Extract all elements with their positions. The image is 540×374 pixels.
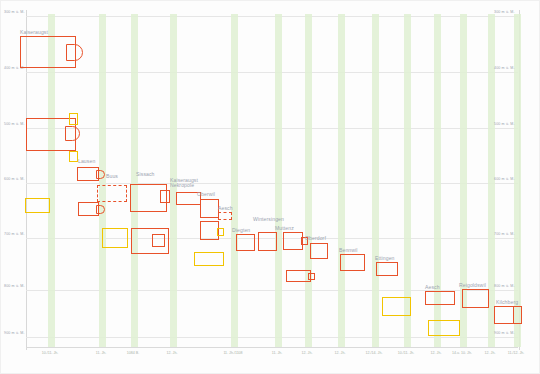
site-label: Kilchberg: [496, 300, 518, 305]
site-label: Diegten: [232, 228, 250, 233]
x-tick-label: 12. Jh.: [167, 352, 178, 356]
x-tick-label: 10./11. Jh.: [42, 352, 59, 356]
ground-plan-yellow-wide-low: [194, 252, 224, 266]
ground-plan-second-yellow-large: [25, 198, 50, 213]
x-tick-label: 12. Jh.: [302, 352, 313, 356]
site-label-line: Bennwil: [339, 248, 358, 253]
x-tick-label: 11./12. Jh.: [508, 352, 525, 356]
x-tick-label: 12. Jh.: [485, 352, 496, 356]
y-tick-label-right: 900 m ü. M.: [494, 332, 515, 336]
column-band: [275, 14, 282, 347]
column-band: [99, 14, 106, 347]
x-tick-label: 12. Jh.: [335, 352, 346, 356]
ground-plan-aesch-right-low: [428, 320, 460, 336]
column-band: [372, 14, 379, 347]
ground-plan-low-red-strip-annexe: [308, 273, 315, 280]
x-axis-line: [26, 347, 518, 348]
y-tick-label-left: 900 m ü. M.: [4, 332, 25, 336]
x-tick-label: 1084 B.: [127, 352, 139, 356]
y-tick-label-left: 800 m ü. M.: [4, 285, 25, 289]
ground-plan-aesch-right: [425, 291, 455, 305]
ground-plan-muttenz: [283, 232, 303, 250]
x-tick-label: 11. Jh.: [96, 352, 107, 356]
site-label-line: Kaiseraugst: [20, 30, 48, 35]
site-label: Oberdorf: [305, 236, 326, 241]
ground-plan-wintersingen: [258, 232, 277, 251]
site-label: Aesch: [218, 206, 233, 211]
column-band: [305, 14, 312, 347]
site-label: KaiseraugstNekropole: [170, 178, 198, 189]
ground-plan-yellow-mid-right: [382, 297, 411, 316]
ground-plan-kilchberg-divider: [513, 306, 522, 324]
site-label: Buus: [106, 174, 118, 179]
y-tick-label-left: 500 m ü. M.: [4, 123, 25, 127]
ground-plan-lausen-annexe-top: [69, 113, 78, 125]
x-tick-label: 11. Jh./1108: [223, 352, 242, 356]
site-label: Bennwil: [339, 248, 358, 253]
ground-plan-big-red-low-choir: [152, 234, 165, 247]
y-tick-label-left: 700 m ü. M.: [4, 233, 25, 237]
site-label-line: Kilchberg: [496, 300, 518, 305]
x-tick-label: 10./11. Jh.: [398, 352, 415, 356]
ground-plan-kaiseraugst-apse: [66, 44, 83, 61]
site-label-line: Oberdorf: [305, 236, 326, 241]
ground-plan-oberdorf: [310, 243, 328, 259]
figure-canvas: 300 m ü. M.300 m ü. M.400 m ü. M.400 m ü…: [0, 0, 540, 374]
x-tick-label: 12. Jh.: [431, 352, 442, 356]
ground-plan-second-red-apse: [96, 205, 105, 214]
y-tick-label-right: 800 m ü. M.: [494, 285, 515, 289]
y-tick-label-left: 600 m ü. M.: [4, 178, 25, 182]
site-label-line: Aesch: [425, 285, 440, 290]
ground-plan-buus-ghost: [97, 185, 127, 202]
ground-plan-sissach-choir: [160, 190, 170, 203]
y-tick-label-left: 300 m ü. M.: [4, 11, 25, 15]
site-label-line: Diegten: [232, 228, 250, 233]
site-label-line: Nekropole: [170, 183, 198, 188]
site-label: Oberwil: [197, 192, 215, 197]
ground-plan-diegten: [236, 234, 255, 251]
site-label-line: Ettingen: [375, 256, 395, 261]
site-label: Kaiseraugst: [20, 30, 48, 35]
ground-plan-bennwil: [340, 254, 365, 271]
x-tick-label: 14.u. 10. Jh.: [452, 352, 472, 356]
site-label: Lausen: [78, 159, 95, 164]
site-label: Ettingen: [375, 256, 395, 261]
ground-plan-ettingen: [376, 262, 398, 276]
site-label-line: Reigoldswil: [459, 283, 486, 288]
column-band: [231, 14, 238, 347]
site-label: Muttenz: [275, 226, 294, 231]
ground-plan-aesch-dashed: [218, 212, 232, 220]
ground-plan-buus-apse: [96, 170, 105, 179]
ground-plan-yellow-box-low: [102, 228, 128, 248]
y-tick-label-right: 500 m ü. M.: [494, 123, 515, 127]
ground-plan-oberwil-upper: [200, 199, 219, 218]
site-label: Reigoldswil: [459, 283, 486, 288]
site-label-line: Oberwil: [197, 192, 215, 197]
site-label: Sissach: [136, 172, 155, 177]
site-label: Aesch: [425, 285, 440, 290]
site-label-line: Wintersingen: [253, 217, 284, 222]
column-band: [131, 14, 138, 347]
ground-plan-reigoldswil: [462, 289, 489, 308]
site-label-line: Muttenz: [275, 226, 294, 231]
y-tick-label-right: 700 m ü. M.: [494, 233, 515, 237]
y-tick-label-right: 300 m ü. M.: [494, 11, 515, 15]
site-label: Wintersingen: [253, 217, 284, 222]
y-tick-label-right: 400 m ü. M.: [494, 67, 515, 71]
y-tick-label-right: 600 m ü. M.: [494, 178, 515, 182]
ground-plan-oberwil-annexe: [217, 228, 224, 236]
column-band: [514, 14, 521, 347]
ground-plan-lausen-apse: [65, 126, 80, 141]
site-label-line: Lausen: [78, 159, 95, 164]
site-label-line: Aesch: [218, 206, 233, 211]
ground-plan-lausen-annexe-bot: [69, 151, 78, 162]
column-band: [338, 14, 345, 347]
x-tick-label: 12./14. Jh.: [366, 352, 383, 356]
site-label-line: Buus: [106, 174, 118, 179]
x-tick-label: 11. Jh.: [272, 352, 283, 356]
site-label-line: Sissach: [136, 172, 155, 177]
